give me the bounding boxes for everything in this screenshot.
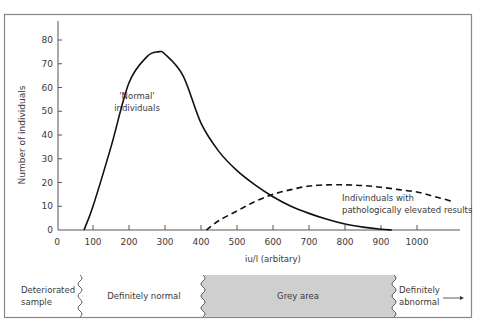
band-normal-label: Definitely normal xyxy=(107,291,180,301)
band-deteriorated-label: Deteriorated xyxy=(21,285,75,295)
chart-figure: 0102030405060708001002003004005006007008… xyxy=(0,0,480,334)
x-tick-label: 1000 xyxy=(406,237,429,247)
x-tick-label: 700 xyxy=(300,237,317,247)
y-tick-label: 0 xyxy=(47,225,53,235)
y-tick-label: 60 xyxy=(42,83,54,93)
y-tick-label: 10 xyxy=(42,201,54,211)
y-tick-label: 70 xyxy=(42,59,54,69)
y-tick-label: 30 xyxy=(42,154,54,164)
y-tick-label: 40 xyxy=(42,130,54,140)
x-tick-label: 900 xyxy=(372,237,389,247)
y-axis-label: Number of individuals xyxy=(17,85,27,184)
y-tick-label: 50 xyxy=(42,106,54,116)
x-tick-label: 0 xyxy=(54,237,60,247)
y-tick-label: 80 xyxy=(42,35,54,45)
band-grey-area-label: Grey area xyxy=(277,291,319,301)
band-abnormal-label: Definitely xyxy=(399,285,440,295)
band-deteriorated-label: sample xyxy=(21,297,52,307)
x-tick-label: 400 xyxy=(192,237,209,247)
x-tick-label: 300 xyxy=(156,237,173,247)
x-axis-label: iu/l (arbitary) xyxy=(245,254,301,264)
x-tick-label: 100 xyxy=(84,237,101,247)
outer-frame xyxy=(5,15,472,318)
boundary-wave xyxy=(78,275,82,317)
normal-annotation: 'Normal' xyxy=(119,91,154,101)
x-tick-label: 200 xyxy=(120,237,137,247)
y-tick-label: 20 xyxy=(42,178,54,188)
arrow-head-icon xyxy=(460,296,464,300)
x-tick-label: 600 xyxy=(264,237,281,247)
x-tick-label: 500 xyxy=(228,237,245,247)
normal-individuals-curve xyxy=(84,51,392,230)
elevated-annotation: Indivinduals with xyxy=(342,193,414,203)
band-abnormal-label: abnormal xyxy=(399,297,439,307)
normal-annotation: individuals xyxy=(114,103,160,113)
elevated-annotation: pathologically elevated results xyxy=(342,205,473,215)
x-tick-label: 800 xyxy=(336,237,353,247)
